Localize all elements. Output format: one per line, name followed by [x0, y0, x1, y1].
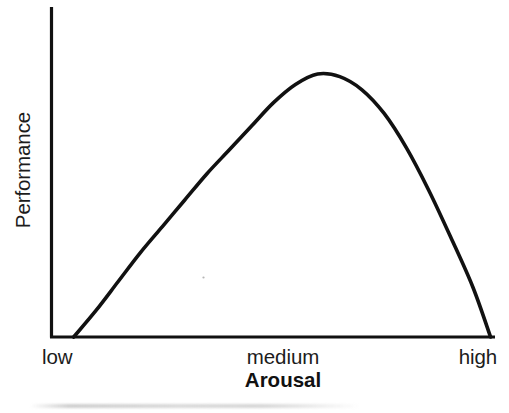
performance-curve: [74, 73, 491, 337]
scan-artifact: [30, 404, 360, 408]
x-axis-label: Arousal: [0, 367, 509, 393]
y-axis-label: Performance: [0, 0, 46, 340]
arousal-performance-chart: Performance low medium high Arousal: [0, 0, 509, 413]
scan-speck: [202, 276, 204, 278]
